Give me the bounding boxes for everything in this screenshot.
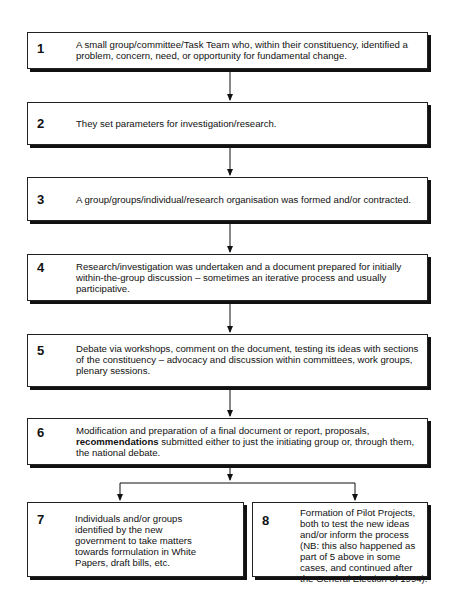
arrowhead-2-to-3 — [227, 169, 233, 176]
branch-connector — [120, 483, 355, 500]
step-text: Modification and preparation of a final … — [76, 425, 421, 458]
step-number: 2 — [37, 116, 44, 131]
step-number: 6 — [37, 425, 44, 440]
arrowhead-1-to-2 — [227, 94, 233, 101]
step-box-1: 1 A small group/committee/Task Team who,… — [27, 32, 428, 69]
step-box-3: 3 A group/groups/individual/research org… — [27, 177, 428, 221]
step-text: They set parameters for investigation/re… — [76, 118, 416, 129]
step-box-6: 6 Modification and preparation of a fina… — [27, 418, 428, 465]
step-text: Formation of Pilot Projects, both to tes… — [300, 507, 428, 584]
step-number: 5 — [37, 343, 44, 358]
arrowhead-6-to-7 — [117, 494, 123, 501]
step-text-before: Modification and preparation of a final … — [76, 425, 369, 436]
arrowhead-3-to-4 — [227, 246, 233, 253]
step-number: 4 — [37, 260, 44, 275]
step-box-2: 2 They set parameters for investigation/… — [27, 102, 428, 145]
step-box-8: 8 Formation of Pilot Projects, both to t… — [252, 502, 428, 577]
step-number: 8 — [262, 513, 269, 528]
arrowhead-6-to-8 — [352, 494, 358, 501]
step-number: 7 — [37, 512, 44, 527]
step-number: 1 — [37, 41, 44, 56]
step-box-5: 5 Debate via workshops, comment on the d… — [27, 334, 428, 387]
step-text: A small group/committee/Task Team who, w… — [76, 39, 416, 61]
step-box-4: 4 Research/investigation was undertaken … — [27, 254, 428, 301]
step-box-7: 7 Individuals and/or groups identified b… — [27, 502, 244, 577]
arrowhead-4-to-5 — [227, 326, 233, 333]
step-text: Research/investigation was undertaken an… — [76, 261, 421, 294]
arrowhead-5-to-6 — [227, 410, 233, 417]
step-text: A group/groups/individual/research organ… — [76, 194, 426, 205]
step-number: 3 — [37, 192, 44, 207]
step-text-bold-recommendations: recommendations — [76, 436, 159, 447]
step-text: Individuals and/or groups identified by … — [75, 513, 210, 568]
arrowhead-6-down — [227, 474, 233, 481]
step-text: Debate via workshops, comment on the doc… — [76, 343, 421, 376]
